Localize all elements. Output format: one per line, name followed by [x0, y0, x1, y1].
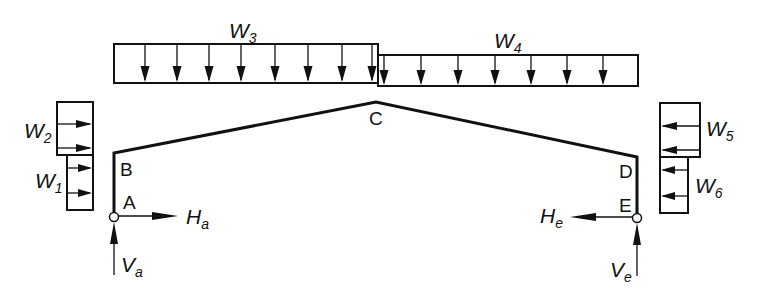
load-w4-label: W4 [494, 29, 522, 56]
load-w3-block [114, 44, 378, 83]
load-w6-block [660, 157, 688, 213]
reaction-va-label: Va [121, 253, 143, 280]
pin-support-a [110, 213, 119, 222]
load-w2-label: W2 [24, 119, 52, 146]
load-w6-label: W6 [695, 174, 723, 201]
load-w1-label: W1 [35, 169, 63, 196]
node-label-e: E [619, 195, 632, 216]
node-label-a: A [123, 192, 136, 213]
load-w3-label: W3 [229, 19, 257, 46]
pin-support-e [633, 214, 642, 223]
node-label-d: D [619, 161, 633, 182]
reaction-va: Va [110, 222, 143, 280]
load-w2: W2 [24, 102, 93, 155]
load-w3-arrows [141, 45, 377, 82]
node-label-c: C [369, 108, 383, 129]
reaction-ve-label: Ve [610, 258, 632, 285]
portal-frame-diagram: W3 W4 W2 W1 W5 [0, 0, 765, 300]
load-w4-arrows [380, 56, 608, 85]
load-w1-block [67, 155, 93, 210]
node-label-b: B [120, 159, 133, 180]
load-w6: W6 [660, 157, 723, 213]
load-w5: W5 [660, 103, 734, 157]
reaction-he-label: He [540, 204, 563, 231]
load-w3: W3 [114, 19, 378, 83]
reaction-ha-label: Ha [186, 205, 209, 232]
reaction-ve: Ve [610, 223, 641, 285]
load-w5-label: W5 [706, 117, 734, 144]
load-w4: W4 [378, 29, 638, 86]
load-w1: W1 [35, 155, 93, 210]
